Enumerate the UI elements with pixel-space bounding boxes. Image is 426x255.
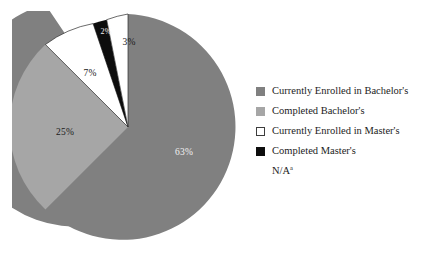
- legend-label-currently-enrolled-bachelors: Currently Enrolled in Bachelor's: [272, 84, 408, 97]
- pie-slices: [12, 14, 235, 240]
- pie-chart-svg: 63% 25% 7% 2% 3%: [12, 11, 244, 243]
- legend-item-currently-enrolled-masters[interactable]: Currently Enrolled in Master's: [256, 124, 422, 144]
- slice-value-completed-masters: 2%: [100, 27, 111, 36]
- slice-value-currently-enrolled-bachelors: 63%: [175, 147, 193, 157]
- legend-swatch-icon-completed-bachelors: [256, 107, 265, 116]
- legend-swatch-icon-currently-enrolled-masters: [256, 127, 265, 136]
- legend-label-na-footnote: a: [290, 164, 293, 171]
- legend-swatch-icon-na: [256, 167, 265, 176]
- slice-value-na: 3%: [122, 37, 135, 47]
- legend-label-completed-masters: Completed Master's: [272, 144, 356, 157]
- legend-item-currently-enrolled-bachelors[interactable]: Currently Enrolled in Bachelor's: [256, 84, 422, 104]
- legend-label-na: N/Aa: [272, 164, 293, 177]
- chart-legend: Currently Enrolled in Bachelor's Complet…: [256, 84, 422, 184]
- legend-label-na-text: N/A: [272, 165, 290, 176]
- pie-chart-plot-area: 63% 25% 7% 2% 3%: [12, 11, 244, 243]
- pie-chart-figure: 63% 25% 7% 2% 3% Currently Enrolled in B…: [0, 0, 426, 255]
- slice-value-currently-enrolled-masters: 7%: [83, 68, 96, 78]
- legend-label-completed-bachelors: Completed Bachelor's: [272, 104, 365, 117]
- legend-item-completed-masters[interactable]: Completed Master's: [256, 144, 422, 164]
- legend-item-completed-bachelors[interactable]: Completed Bachelor's: [256, 104, 422, 124]
- legend-swatch-icon-completed-masters: [256, 147, 265, 156]
- legend-label-currently-enrolled-masters: Currently Enrolled in Master's: [272, 124, 400, 137]
- legend-item-na[interactable]: N/Aa: [256, 164, 422, 184]
- slice-value-completed-bachelors: 25%: [56, 127, 74, 137]
- legend-swatch-icon-currently-enrolled-bachelors: [256, 87, 265, 96]
